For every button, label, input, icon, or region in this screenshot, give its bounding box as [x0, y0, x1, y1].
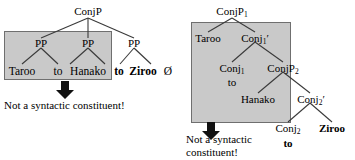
right-node-conj-2-bar-prime: ′	[322, 93, 324, 105]
figure-root: ConjP PP PP PP Taroo to Hanako to Ziroo …	[0, 0, 355, 160]
right-node-conj-1-subscript: 1	[241, 67, 245, 76]
right-node-conj-1-bar-prime: ′	[266, 32, 268, 44]
right-node-conj-1-bar-subscript: 1	[263, 37, 267, 46]
right-tree: ConjP1 Taroo Conj1′ Conj1 to ConjP2 Hana…	[0, 0, 355, 160]
right-node-conj-2-bar-subscript: 2	[319, 98, 323, 107]
right-node-conjp-1-label: ConjP	[216, 5, 244, 17]
right-node-conjp-2-label: ConjP	[267, 62, 295, 74]
right-node-conjp-1-subscript: 1	[244, 10, 248, 19]
right-node-ziroo: Ziroo	[319, 123, 345, 134]
right-node-conjp-2-subscript: 2	[295, 67, 299, 76]
right-leaf-to-1: to	[228, 77, 237, 88]
right-node-hanako-label: Hanako	[241, 93, 275, 105]
right-node-conj-2-bar-label: Conj	[297, 93, 318, 105]
right-tree-annotation: Not a syntactic constituent!	[186, 133, 291, 158]
right-node-conj-1-bar-label: Conj	[241, 32, 262, 44]
right-node-hanako: Hanako	[241, 94, 275, 105]
right-tree-branches	[0, 0, 355, 160]
right-node-conj-2-bar: Conj2′	[297, 94, 325, 106]
right-node-taroo: Taroo	[195, 33, 221, 44]
right-node-conj-1-bar: Conj1′	[241, 33, 269, 45]
right-node-conj-1: Conj1	[219, 63, 244, 75]
right-node-conjp-1: ConjP1	[216, 6, 247, 18]
right-node-taroo-label: Taroo	[195, 32, 221, 44]
right-node-conjp-2: ConjP2	[267, 63, 298, 75]
right-node-conj-2-subscript: 2	[297, 127, 301, 136]
right-node-conj-1-label: Conj	[219, 62, 240, 74]
